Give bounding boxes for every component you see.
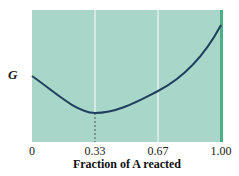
x-axis-title: Fraction of A reacted [73, 157, 181, 172]
x-tick-0: 0 [29, 144, 35, 159]
chart [0, 0, 239, 176]
x-tick-100: 1.00 [211, 144, 232, 159]
plot-right-edge [220, 10, 223, 142]
y-axis-label: G [8, 67, 17, 83]
plot-area [32, 10, 222, 142]
